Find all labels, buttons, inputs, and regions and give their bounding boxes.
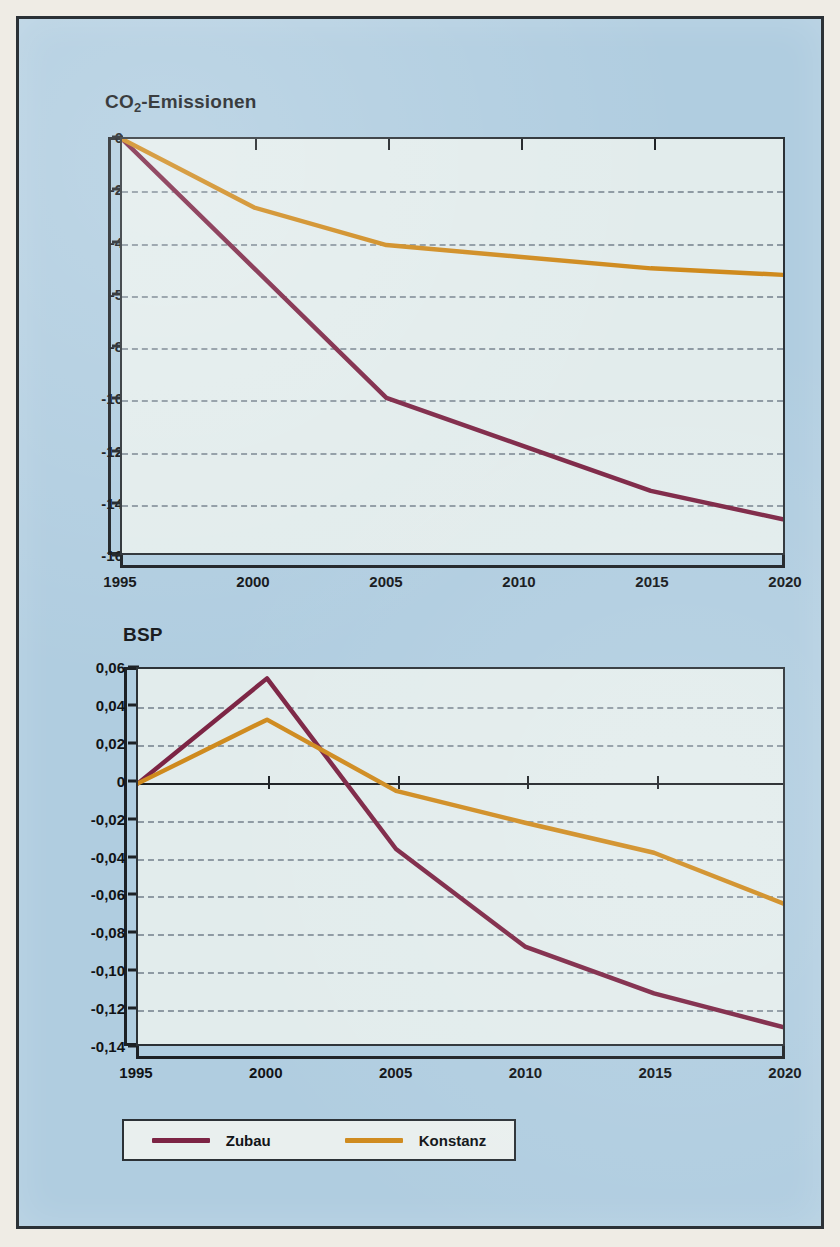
series-line-konstanz — [122, 139, 783, 275]
x-axis-bracket-co2 — [120, 555, 785, 568]
legend-entry-zubau: Zubau — [152, 1132, 271, 1149]
x-tick-label-bsp: 2000 — [249, 1064, 282, 1081]
series-line-konstanz — [138, 720, 783, 904]
x-tick-label-bsp: 2020 — [768, 1064, 801, 1081]
x-tick-label-bsp: 2005 — [379, 1064, 412, 1081]
legend-label-konstanz: Konstanz — [419, 1132, 487, 1149]
figure-panel: CO2-Emissionen 0-2-4-5-8-10-12-14-16 199… — [16, 16, 824, 1229]
y-tick-label-bsp: -0,12 — [53, 1000, 125, 1017]
series-layer-bsp — [138, 669, 783, 1044]
legend-entry-konstanz: Konstanz — [345, 1132, 487, 1149]
chart-bsp: BSP 0,060,040,020-0,02-0,04-0,06-0,08-0,… — [19, 589, 827, 1109]
x-tick-label-co2: 2005 — [369, 573, 402, 590]
x-tick-label-co2: 2010 — [502, 573, 535, 590]
series-line-zubau — [122, 139, 783, 519]
x-tick-label-co2: 1995 — [103, 573, 136, 590]
chart-title-bsp: BSP — [123, 624, 163, 646]
y-tick-label-bsp: 0 — [53, 772, 125, 789]
x-axis-bracket-bsp — [136, 1046, 785, 1059]
chart-co2-emissionen: CO2-Emissionen 0-2-4-5-8-10-12-14-16 199… — [19, 19, 827, 589]
legend-swatch-zubau — [152, 1138, 210, 1143]
y-tick-label-bsp: 0,04 — [53, 696, 125, 713]
y-tick-label-bsp: -0,02 — [53, 810, 125, 827]
y-tick-label-bsp: 0,06 — [53, 659, 125, 676]
plot-area-co2 — [120, 137, 785, 555]
x-tick-label-co2: 2000 — [236, 573, 269, 590]
series-line-zubau — [138, 678, 783, 1027]
series-layer-co2 — [122, 139, 783, 553]
chart-title-co2-rest: -Emissionen — [141, 91, 256, 112]
plot-area-bsp — [136, 667, 785, 1046]
x-tick-label-co2: 2015 — [635, 573, 668, 590]
y-axis-bsp: 0,060,040,020-0,02-0,04-0,06-0,08-0,10-0… — [49, 667, 125, 1046]
y-tick-label-bsp: -0,04 — [53, 848, 125, 865]
legend-label-zubau: Zubau — [226, 1132, 271, 1149]
x-axis-bsp: 199520002005201020152020 — [136, 1062, 785, 1086]
y-tick-label-bsp: 0,02 — [53, 734, 125, 751]
x-tick-label-co2: 2020 — [768, 573, 801, 590]
printed-page: CO2-Emissionen 0-2-4-5-8-10-12-14-16 199… — [0, 0, 840, 1247]
y-tick-label-bsp: -0,10 — [53, 962, 125, 979]
y-tick-label-bsp: -0,06 — [53, 886, 125, 903]
y-tick-label-bsp: -0,14 — [53, 1038, 125, 1055]
legend-swatch-konstanz — [345, 1138, 403, 1143]
x-tick-label-bsp: 1995 — [119, 1064, 152, 1081]
chart-title-co2: CO2-Emissionen — [105, 91, 257, 113]
x-tick-label-bsp: 2010 — [509, 1064, 542, 1081]
chart-title-co2-subscript: 2 — [134, 100, 141, 115]
chart-title-co2-main: CO — [105, 91, 134, 112]
x-tick-label-bsp: 2015 — [639, 1064, 672, 1081]
y-tick-label-bsp: -0,08 — [53, 924, 125, 941]
legend: Zubau Konstanz — [122, 1119, 516, 1161]
